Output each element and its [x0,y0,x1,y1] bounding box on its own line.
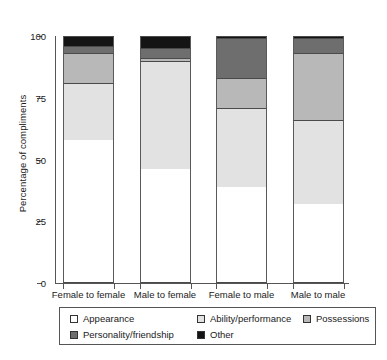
legend-item-possessions[interactable]: Possessions [303,313,369,324]
plot-area: 1007550250 Female to femaleMale to femal… [63,36,343,283]
legend-label: Possessions [316,313,369,324]
legend-row: AppearanceAbility/performancePossessions [60,311,375,327]
legend-swatch-icon [197,315,205,323]
bar-segment-ability-performance[interactable] [293,120,344,204]
y-tick-label: 25 [35,216,46,227]
y-tick-label: 100 [30,31,46,42]
y-tick-label: 50 [35,154,46,165]
legend-item-ability-performance[interactable]: Ability/performance [197,313,291,324]
bar-segment-possessions[interactable] [216,78,267,108]
bar-segment-personality-friendship[interactable] [63,46,114,53]
bar-segment-possessions[interactable] [140,58,191,60]
bar-male-to-female[interactable] [140,36,191,283]
bar-segment-appearance[interactable] [63,140,114,283]
legend-label: Personality/friendship [83,329,174,340]
bar-segment-other[interactable] [293,36,344,38]
x-axis-label-male-to-male: Male to male [263,289,373,300]
y-tick-label: 0 [41,278,46,289]
legend-item-other[interactable]: Other [197,329,234,340]
bar-male-to-male[interactable] [293,36,344,283]
bar-segment-personality-friendship[interactable] [216,38,267,78]
legend-label: Other [210,329,234,340]
y-axis-line [55,36,56,283]
stacked-bar-chart: Percentage of compliments 1007550250 Fem… [0,0,387,360]
bar-segment-other[interactable] [63,36,114,46]
bar-female-to-male[interactable] [216,36,267,283]
legend-item-appearance[interactable]: Appearance [70,313,134,324]
bar-segment-other[interactable] [140,36,191,48]
y-tick-label: 75 [35,92,46,103]
legend-row: Personality/friendshipOther [60,327,375,343]
bar-female-to-female[interactable] [63,36,114,283]
legend-swatch-icon [70,331,78,339]
y-axis-title: Percentage of compliments [17,54,28,254]
legend-item-personality-friendship[interactable]: Personality/friendship [70,329,174,340]
bar-segment-appearance[interactable] [140,169,191,283]
bar-segment-appearance[interactable] [216,187,267,283]
x-axis-line [55,283,349,284]
legend-label: Appearance [83,313,134,324]
bar-segment-possessions[interactable] [293,53,344,120]
legend-swatch-icon [303,315,311,323]
bar-segment-ability-performance[interactable] [140,61,191,170]
bar-segment-appearance[interactable] [293,204,344,283]
bar-segment-personality-friendship[interactable] [140,48,191,58]
chart-legend: AppearanceAbility/performancePossessions… [59,307,376,345]
bar-segment-personality-friendship[interactable] [293,38,344,53]
legend-swatch-icon [197,331,205,339]
bar-segment-other[interactable] [216,36,267,38]
bar-segment-ability-performance[interactable] [63,83,114,140]
legend-label: Ability/performance [210,313,291,324]
legend-swatch-icon [70,315,78,323]
bar-segment-ability-performance[interactable] [216,108,267,187]
bar-segment-possessions[interactable] [63,53,114,83]
